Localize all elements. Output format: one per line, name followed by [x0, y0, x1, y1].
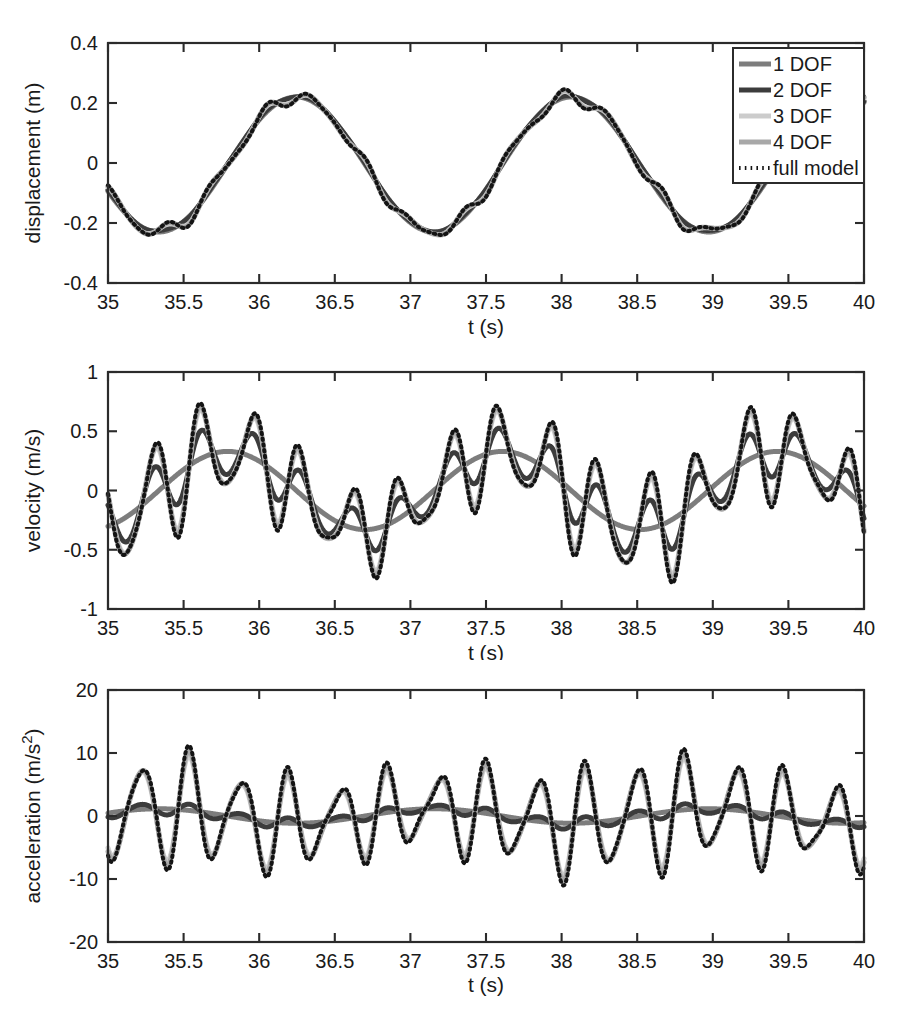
- chart-acceleration: 3535.53636.53737.53838.53939.540-20-1001…: [0, 648, 901, 1035]
- x-tick-label: 35.5: [164, 291, 203, 313]
- x-tick-label: 35: [97, 617, 119, 639]
- legend-label-4-dof: 4 DOF: [773, 131, 832, 153]
- legend-label-3-dof: 3 DOF: [773, 105, 832, 127]
- x-tick-label: 37: [399, 291, 421, 313]
- y-axis-title: displacement (m): [21, 82, 44, 243]
- x-tick-label: 37.5: [467, 291, 506, 313]
- x-tick-label: 35: [97, 950, 119, 972]
- x-tick-label: 38.5: [618, 617, 657, 639]
- chart-velocity: 3535.53636.53737.53838.53939.540-1-0.500…: [0, 330, 901, 660]
- series-group: [108, 745, 864, 885]
- y-tick-label: 0.5: [70, 420, 98, 442]
- y-tick-label: -0.5: [64, 539, 98, 561]
- x-tick-label: 37.5: [467, 950, 506, 972]
- x-tick-label: 39.5: [769, 617, 808, 639]
- x-tick-label: 36: [248, 617, 270, 639]
- y-tick-label: -10: [69, 868, 98, 890]
- y-axis-title: velocity (m/s): [21, 429, 44, 553]
- y-tick-label: 0: [87, 152, 98, 174]
- x-axis-title: t (s): [468, 973, 504, 996]
- series-line-full-model: [108, 403, 864, 583]
- x-tick-label: 35.5: [164, 950, 203, 972]
- x-tick-label: 39.5: [769, 950, 808, 972]
- x-tick-label: 39: [702, 950, 724, 972]
- series-group: [108, 403, 864, 583]
- x-tick-label: 36: [248, 291, 270, 313]
- figure-canvas: 3535.53636.53737.53838.53939.540-0.4-0.2…: [0, 0, 901, 1035]
- x-tick-label: 39: [702, 291, 724, 313]
- y-tick-label: 20: [76, 679, 98, 701]
- x-tick-label: 38: [550, 950, 572, 972]
- x-tick-label: 36: [248, 950, 270, 972]
- y-axis-title: acceleration (m/s2): [18, 728, 44, 903]
- y-tick-label: -20: [69, 931, 98, 953]
- x-tick-label: 36.5: [315, 291, 354, 313]
- y-tick-label: -0.4: [64, 272, 98, 294]
- x-tick-label: 35.5: [164, 617, 203, 639]
- x-tick-label: 38: [550, 617, 572, 639]
- x-tick-label: 36.5: [315, 617, 354, 639]
- subplot-velocity: 3535.53636.53737.53838.53939.540-1-0.500…: [0, 330, 901, 660]
- x-tick-label: 37: [399, 950, 421, 972]
- x-tick-label: 40: [853, 617, 875, 639]
- chart-displacement: 3535.53636.53737.53838.53939.540-0.4-0.2…: [0, 0, 901, 345]
- y-tick-label: 0: [87, 805, 98, 827]
- x-tick-label: 37: [399, 617, 421, 639]
- x-tick-label: 39.5: [769, 291, 808, 313]
- y-tick-label: 0.2: [70, 92, 98, 114]
- x-tick-label: 38: [550, 291, 572, 313]
- subplot-acceleration: 3535.53636.53737.53838.53939.540-20-1001…: [0, 648, 901, 1035]
- y-tick-label: 0.4: [70, 32, 98, 54]
- x-tick-label: 35: [97, 291, 119, 313]
- legend-label-2-dof: 2 DOF: [773, 79, 832, 101]
- x-tick-label: 37.5: [467, 617, 506, 639]
- y-tick-label: -1: [80, 598, 98, 620]
- y-tick-label: 10: [76, 742, 98, 764]
- legend-label-full-model: full model: [773, 157, 859, 179]
- legend-label-1-dof: 1 DOF: [773, 53, 832, 75]
- legend: 1 DOF2 DOF3 DOF4 DOFfull model: [733, 48, 864, 183]
- y-tick-label: 1: [87, 361, 98, 383]
- x-tick-label: 39: [702, 617, 724, 639]
- x-tick-label: 38.5: [618, 950, 657, 972]
- subplot-displacement: 3535.53636.53737.53838.53939.540-0.4-0.2…: [0, 0, 901, 345]
- x-tick-label: 40: [853, 950, 875, 972]
- y-tick-label: 0: [87, 480, 98, 502]
- x-tick-label: 40: [853, 291, 875, 313]
- x-tick-label: 38.5: [618, 291, 657, 313]
- y-tick-label: -0.2: [64, 212, 98, 234]
- x-tick-label: 36.5: [315, 950, 354, 972]
